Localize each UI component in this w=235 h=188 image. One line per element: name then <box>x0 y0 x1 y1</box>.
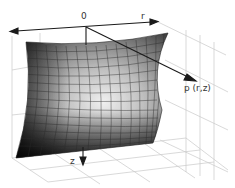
z-axis-label: z <box>70 157 75 166</box>
surface-diagram <box>0 0 235 188</box>
point-label: p (r,z) <box>184 84 211 93</box>
mesh-surface <box>10 25 180 165</box>
r-axis-label: r <box>141 12 145 21</box>
origin-label: 0 <box>81 12 87 21</box>
